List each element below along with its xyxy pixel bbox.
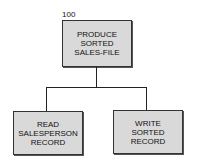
module-label-line: RECORD xyxy=(31,138,66,147)
module-label-line: READ xyxy=(37,120,59,129)
module-label-line: SORTED xyxy=(80,39,113,48)
module-produce-sorted-sales-file: PRODUCE SORTED SALES-FILE xyxy=(62,20,132,67)
connector-vertical-right xyxy=(146,87,147,110)
module-label-line: WRITE xyxy=(135,119,161,128)
module-read-salesperson-record: READ SALESPERSON RECORD xyxy=(13,111,83,155)
module-write-sorted-record: WRITE SORTED RECORD xyxy=(113,110,183,154)
connector-vertical-left xyxy=(46,87,47,111)
module-number: 100 xyxy=(62,10,75,19)
module-label-line: PRODUCE xyxy=(77,30,117,39)
module-label-line: RECORD xyxy=(131,137,166,146)
connector-horizontal xyxy=(46,87,147,88)
module-label-line: SALES-FILE xyxy=(74,48,119,57)
module-label-line: SORTED xyxy=(131,128,164,137)
module-label-line: SALESPERSON xyxy=(18,129,78,138)
connector-vertical-root xyxy=(96,67,97,88)
